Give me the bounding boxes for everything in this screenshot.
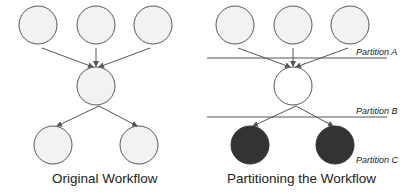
- node-partition-a: [216, 6, 254, 44]
- node: [120, 126, 158, 164]
- node-partition-c: [316, 126, 354, 164]
- node-partition-a: [331, 6, 369, 44]
- partition-label-b: Partition B: [356, 106, 398, 116]
- node: [34, 126, 72, 164]
- edge: [42, 48, 93, 67]
- node-partition-c: [231, 126, 269, 164]
- node: [77, 67, 115, 105]
- node: [134, 6, 172, 44]
- edge: [296, 106, 333, 126]
- partition-label-c: Partition C: [356, 155, 398, 165]
- node-partition-b: [274, 67, 312, 105]
- node: [77, 6, 115, 44]
- edge: [99, 48, 150, 67]
- partition-label-a: Partition A: [356, 47, 397, 57]
- edge: [253, 106, 296, 126]
- partitioned-workflow: [207, 6, 387, 164]
- node: [19, 6, 57, 44]
- caption-partitioning-workflow: Partitioning the Workflow: [227, 171, 376, 186]
- edge: [99, 106, 137, 126]
- node-partition-a: [274, 6, 312, 44]
- original-workflow: [19, 6, 172, 164]
- edge: [57, 106, 99, 126]
- caption-original-workflow: Original Workflow: [52, 171, 158, 186]
